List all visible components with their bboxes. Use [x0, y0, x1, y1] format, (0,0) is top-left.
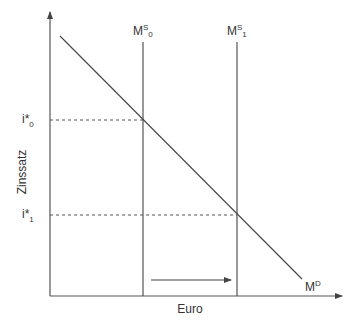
money-demand-line [60, 36, 302, 279]
interest-rate-1-label: i*1 [22, 207, 34, 224]
money-supply-0-label: MS0 [133, 23, 153, 39]
x-axis-label: Euro [177, 302, 203, 316]
money-supply-1-label: MS1 [227, 23, 247, 39]
money-demand-label: MD [305, 279, 321, 294]
money-market-diagram: MS0 MS1 MD i*0 i*1 Zinssatz Euro [0, 0, 351, 324]
y-axis-label: Zinssatz [15, 150, 29, 195]
interest-rate-0-label: i*0 [22, 112, 34, 129]
